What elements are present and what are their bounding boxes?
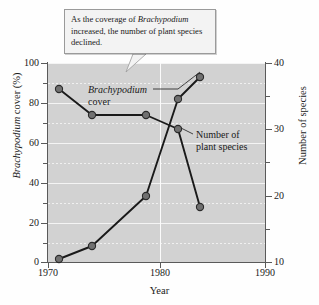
marker-species-1974 <box>88 242 95 249</box>
marker-brachypodium-1974 <box>88 111 95 118</box>
series-annotation-plant-species: Number ofplant species <box>196 129 247 152</box>
marker-brachypodium-1979 <box>142 111 149 118</box>
marker-brachypodium-1984 <box>196 203 203 210</box>
marker-species-1984 <box>196 73 203 80</box>
marker-species-1982 <box>174 95 181 102</box>
leader-line-brachypodium <box>153 72 200 89</box>
marker-brachypodium-1982 <box>174 125 181 132</box>
marker-brachypodium-1971 <box>55 85 62 92</box>
series-annotation-brachypodium-line1: Brachypodium <box>88 84 147 95</box>
series-annotation-brachypodium: Brachypodiumcover <box>88 84 147 107</box>
marker-species-1979 <box>142 192 149 199</box>
series-annotation-species-line1: Number of <box>196 129 240 140</box>
series-annotation-brachypodium-line2: cover <box>88 96 147 108</box>
chart-figure: 100 80 60 40 20 0 40 30 20 10 1970 1980 … <box>0 0 319 305</box>
leader-line-species <box>181 128 193 134</box>
series-layer <box>0 0 319 305</box>
marker-species-1971 <box>55 255 62 262</box>
series-annotation-species-line2: plant species <box>196 141 247 152</box>
